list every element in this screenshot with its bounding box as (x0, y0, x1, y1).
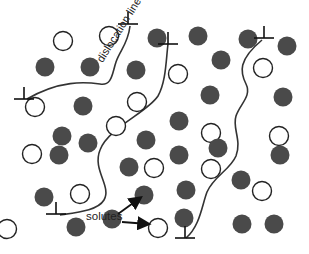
open-solute-atom (202, 160, 221, 179)
filled-solute-atom (170, 146, 189, 165)
filled-solute-atom (53, 127, 72, 146)
filled-solute-atom (74, 97, 93, 116)
filled-solute-atom (36, 58, 55, 77)
filled-solute-atom (127, 61, 146, 80)
filled-solute-atom (50, 146, 69, 165)
filled-solute-atom (120, 158, 139, 177)
open-solute-atom (270, 127, 289, 146)
filled-solute-atom (278, 37, 297, 56)
open-solute-atom (169, 65, 188, 84)
open-solute-atom (254, 59, 273, 78)
dislocation-3 (186, 40, 262, 238)
open-solute-atom (23, 145, 42, 164)
filled-solute-atom (177, 181, 196, 200)
filled-solute-atom (137, 131, 156, 150)
open-solute-atom (149, 219, 168, 238)
filled-solute-atom (201, 86, 220, 105)
filled-solute-atom (170, 112, 189, 131)
open-solute-atom (0, 220, 17, 239)
filled-solute-atom (67, 218, 86, 237)
filled-solute-atom (79, 134, 98, 153)
filled-solute-atom (274, 88, 293, 107)
diagram-canvas (0, 0, 309, 254)
filled-solute-atoms (35, 27, 297, 237)
filled-solute-atom (189, 27, 208, 46)
open-solute-atom (145, 159, 164, 178)
open-solute-atom (253, 182, 272, 201)
filled-solute-atom (271, 146, 290, 165)
open-solute-atom (71, 185, 90, 204)
open-solute-atom (107, 117, 126, 136)
solute-arrow (122, 222, 148, 224)
open-solute-atom (26, 98, 45, 117)
filled-solute-atom (209, 139, 228, 158)
filled-solute-atom (135, 186, 154, 205)
open-solute-atom (54, 32, 73, 51)
filled-solute-atom (233, 215, 252, 234)
solutes-label: solutes (86, 210, 122, 222)
open-solute-atom (128, 93, 147, 112)
filled-solute-atom (212, 51, 231, 70)
filled-solute-atom (35, 188, 54, 207)
filled-solute-atom (175, 209, 194, 228)
filled-solute-atom (232, 171, 251, 190)
filled-solute-atom (81, 58, 100, 77)
filled-solute-atom (265, 215, 284, 234)
filled-solute-atom (239, 30, 258, 49)
